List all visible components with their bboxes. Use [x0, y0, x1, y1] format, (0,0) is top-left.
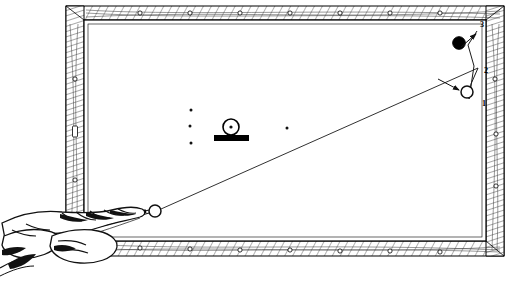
sight-marker [388, 249, 392, 253]
table-spot [286, 127, 289, 130]
position-label-3: 3 [480, 20, 484, 29]
playing-surface [84, 20, 486, 241]
sight-marker [438, 11, 442, 15]
sight-marker [493, 77, 497, 81]
sight-marker [494, 184, 498, 188]
sight-marker [288, 248, 292, 252]
sight-marker [188, 11, 192, 15]
object-ball-white [461, 86, 473, 98]
sight-marker [338, 249, 342, 253]
cue-ball [149, 205, 161, 217]
sight-marker [138, 246, 142, 250]
sight-marker [73, 126, 78, 137]
sight-marker [388, 11, 392, 15]
sight-marker [494, 132, 498, 136]
sight-marker [288, 11, 292, 15]
position-label-1: 1 [482, 99, 486, 108]
sight-marker [338, 11, 342, 15]
object-ball-black [453, 37, 466, 50]
sight-marker [238, 11, 242, 15]
sight-marker [73, 77, 77, 81]
sight-marker [188, 247, 192, 251]
table-spot [190, 109, 193, 112]
sight-marker [138, 11, 142, 15]
table-spot [189, 125, 192, 128]
position-label-2: 2 [484, 66, 488, 75]
obstacle-block [214, 135, 249, 141]
table-spot [190, 142, 193, 145]
sight-marker [238, 248, 242, 252]
sight-marker [73, 178, 77, 182]
billiard-table-diagram: 1 2 3 [0, 0, 510, 289]
illustration-canvas: 1 2 3 [0, 0, 510, 289]
sight-marker [438, 250, 442, 254]
spotted-ball-center-dot [229, 125, 232, 128]
